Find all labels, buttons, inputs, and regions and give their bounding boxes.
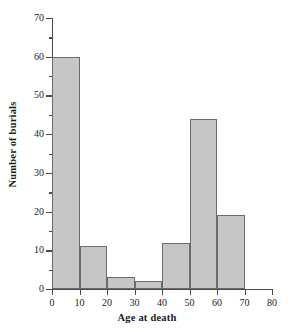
x-axis-tick: [217, 289, 218, 295]
y-axis-title-text: Number of burials: [7, 101, 18, 187]
x-axis-tick: [80, 289, 81, 295]
y-axis-tick-label: 30: [34, 168, 44, 178]
y-axis-tick-label: 60: [34, 52, 44, 62]
histogram-chart: 01020304050607001020304050607080 Number …: [0, 0, 294, 332]
x-axis-tick: [190, 289, 191, 295]
y-axis-tick: [46, 18, 52, 19]
histogram-bar: [107, 277, 135, 289]
y-axis-minor-tick: [49, 154, 53, 155]
plot-area: 01020304050607001020304050607080: [52, 18, 272, 289]
y-axis-tick: [46, 134, 52, 135]
histogram-bar: [135, 281, 163, 289]
x-axis-title: Age at death: [0, 312, 294, 323]
histogram-bar: [162, 243, 190, 289]
x-axis-tick: [245, 289, 246, 295]
y-axis-tick: [46, 173, 52, 174]
x-axis-tick-label: 50: [185, 298, 195, 308]
y-axis-minor-tick: [49, 192, 53, 193]
y-axis-minor-tick: [49, 76, 53, 77]
histogram-bar: [52, 57, 80, 289]
y-axis-tick: [46, 95, 52, 96]
x-axis-tick-label: 70: [240, 298, 250, 308]
x-axis-tick: [52, 289, 53, 295]
x-axis-tick-label: 40: [157, 298, 167, 308]
y-axis-minor-tick: [49, 37, 53, 38]
y-axis-tick-label: 0: [39, 284, 44, 294]
x-axis-tick: [135, 289, 136, 295]
x-axis-tick: [107, 289, 108, 295]
histogram-bar: [80, 246, 108, 289]
y-axis-tick-label: 50: [34, 90, 44, 100]
y-axis-tick-label: 70: [34, 13, 44, 23]
x-axis-tick-label: 60: [212, 298, 222, 308]
y-axis-minor-tick: [49, 231, 53, 232]
y-axis-tick-label: 40: [34, 129, 44, 139]
y-axis-tick-label: 10: [34, 245, 44, 255]
y-axis-title: Number of burials: [2, 0, 22, 289]
y-axis-tick: [46, 250, 52, 251]
x-axis-tick-label: 10: [75, 298, 85, 308]
y-axis-tick: [46, 57, 52, 58]
x-axis-tick-label: 0: [50, 298, 55, 308]
histogram-bar: [217, 215, 245, 289]
x-axis-tick-label: 20: [102, 298, 112, 308]
y-axis-tick-label: 20: [34, 206, 44, 216]
histogram-bar: [190, 119, 218, 289]
y-axis-tick: [46, 212, 52, 213]
y-axis-minor-tick: [49, 115, 53, 116]
x-axis-tick: [162, 289, 163, 295]
y-axis-minor-tick: [49, 270, 53, 271]
x-axis-tick-label: 30: [130, 298, 140, 308]
x-axis-tick-label: 80: [267, 298, 277, 308]
x-axis-tick: [272, 289, 273, 295]
